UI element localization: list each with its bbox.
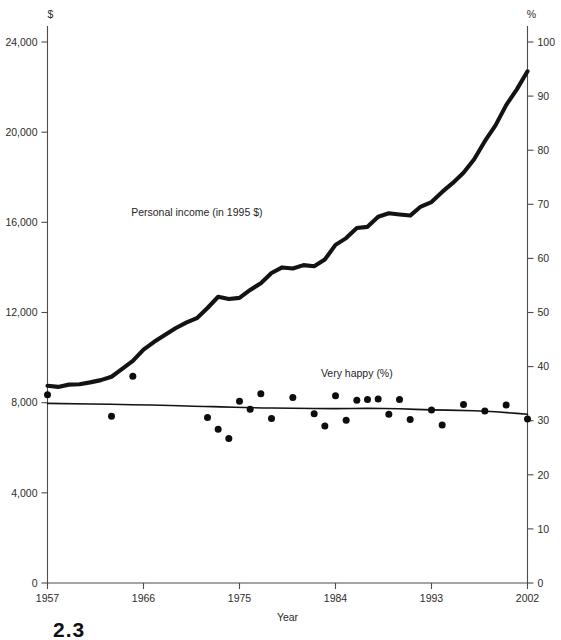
y-ticklabel-right: 80 [538, 144, 550, 156]
y-ticklabel-left: 16,000 [5, 216, 37, 228]
y-ticklabel-left: 4,000 [11, 487, 37, 499]
data-point [321, 423, 328, 430]
y-ticklabel-left: 12,000 [5, 306, 37, 318]
figure-number: 2.3 [53, 619, 85, 640]
data-point [204, 414, 211, 421]
chart-canvas: $%04,0008,00012,00016,00020,00024,000010… [0, 0, 561, 640]
x-ticklabel: 1975 [228, 592, 252, 604]
data-point [524, 416, 531, 423]
x-ticklabel: 1957 [36, 592, 60, 604]
data-point [439, 422, 446, 429]
data-point [364, 396, 371, 403]
data-point [289, 394, 296, 401]
y-ticklabel-right: 70 [538, 198, 550, 210]
y-ticklabel-left: 20,000 [5, 126, 37, 138]
data-point [236, 398, 243, 405]
data-point [407, 416, 414, 423]
data-point [108, 413, 115, 420]
data-point [396, 396, 403, 403]
y-ticklabel-right: 50 [538, 306, 550, 318]
data-point [353, 397, 360, 404]
series-line-personal-income [48, 71, 528, 387]
data-point [428, 406, 435, 413]
annotation-very-happy: Very happy (%) [321, 367, 393, 379]
data-point [247, 406, 254, 413]
data-point [44, 391, 51, 398]
data-point [225, 435, 232, 442]
series-line-very-happy-trend [48, 403, 528, 414]
annotation-personal-income: Personal income (in 1995 $) [131, 206, 262, 218]
x-ticklabel: 1984 [324, 592, 348, 604]
y-ticklabel-right: 40 [538, 360, 550, 372]
data-point [385, 411, 392, 418]
y-ticklabel-right: 10 [538, 523, 550, 535]
y-ticklabel-right: 20 [538, 469, 550, 481]
y-axis-left-unit: $ [48, 8, 54, 20]
data-point [460, 401, 467, 408]
y-ticklabel-right: 100 [538, 36, 556, 48]
data-point [332, 392, 339, 399]
data-point [311, 410, 318, 417]
x-ticklabel: 1966 [132, 592, 156, 604]
y-ticklabel-left: 8,000 [11, 396, 37, 408]
data-point [343, 417, 350, 424]
y-ticklabel-right: 60 [538, 252, 550, 264]
y-ticklabel-right: 90 [538, 90, 550, 102]
y-axis-right-unit: % [527, 8, 536, 20]
y-ticklabel-right: 0 [538, 577, 544, 589]
data-point [268, 415, 275, 422]
data-point [375, 396, 382, 403]
y-ticklabel-left: 0 [32, 577, 38, 589]
data-point [503, 402, 510, 409]
series-group [44, 71, 531, 442]
x-ticklabel: 1993 [420, 592, 444, 604]
data-point [215, 426, 222, 433]
data-point [257, 390, 264, 397]
data-point [129, 373, 136, 380]
figure-container: $%04,0008,00012,00016,00020,00024,000010… [0, 0, 561, 640]
y-ticklabel-right: 30 [538, 414, 550, 426]
y-ticklabel-left: 24,000 [5, 36, 37, 48]
x-ticklabel: 2002 [516, 592, 540, 604]
axes-group: $%04,0008,00012,00016,00020,00024,000010… [5, 8, 555, 623]
data-point [481, 407, 488, 414]
x-axis-title: Year [277, 611, 299, 623]
